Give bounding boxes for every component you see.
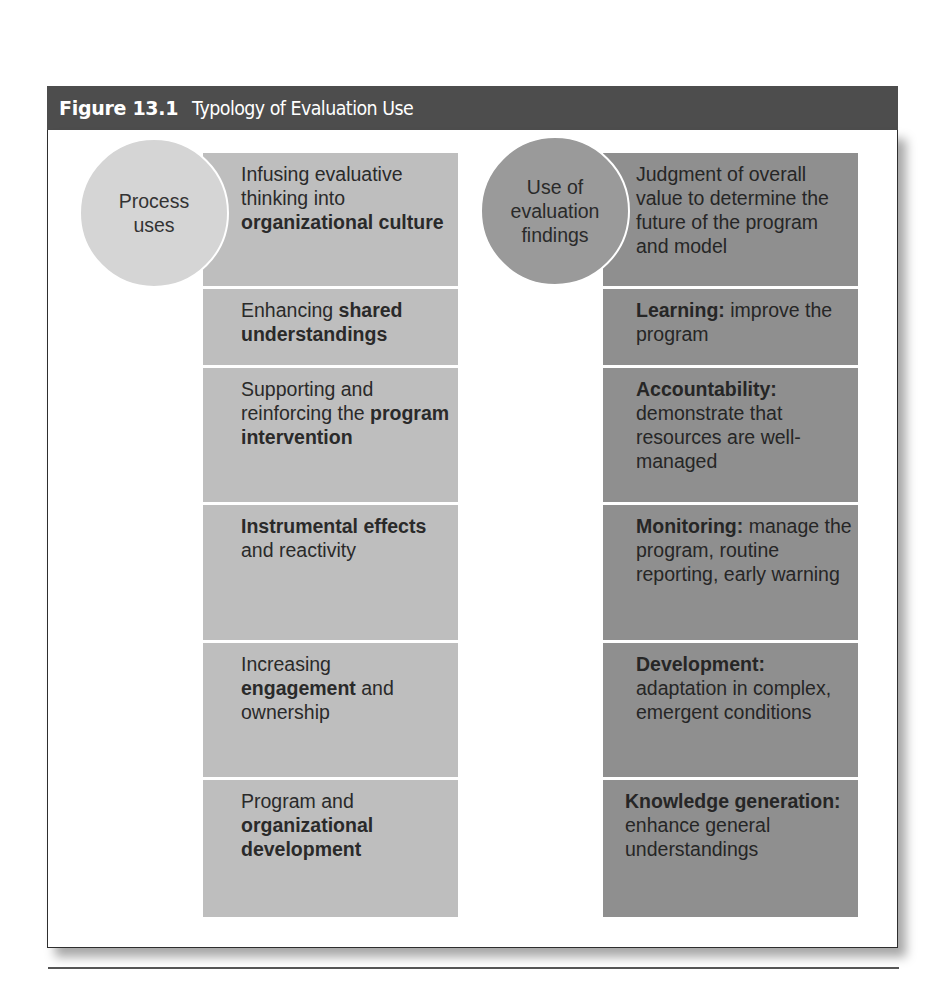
findings-use-item: Judgment of overall value to determine t… [603, 153, 858, 289]
findings-use-item: Monitoring: manage the program, routine … [603, 505, 858, 643]
figure-number: Figure 13.1 [59, 97, 178, 119]
process-use-item: Program and organizational development [203, 780, 458, 917]
findings-use-item: Learning: improve the program [603, 289, 858, 368]
bottom-rule-divider [48, 967, 899, 969]
figure-header: Figure 13.1 Typology of Evaluation Use [47, 86, 898, 130]
process-use-item: Supporting and reinforcing the program i… [203, 368, 458, 505]
circle-label-line: findings [511, 223, 600, 247]
process-use-item: Enhancing shared understandings [203, 289, 458, 368]
process-use-item: Infusing evaluative thinking into organi… [203, 153, 458, 289]
findings-uses-column: Judgment of overall value to determine t… [603, 153, 858, 917]
findings-use-item: Knowledge generation: enhance general un… [603, 780, 858, 917]
circle-label-line: Use of [511, 175, 600, 199]
circle-label-line: uses [119, 213, 189, 237]
findings-use-item: Development: adaptation in complex, emer… [603, 643, 858, 780]
process-use-item: Increasing engagement and ownership [203, 643, 458, 780]
findings-uses-circle: Use of evaluation findings [480, 136, 630, 286]
circle-label-line: Process [119, 189, 189, 213]
findings-use-item: Accountability: demonstrate that resourc… [603, 368, 858, 505]
circle-label-line: evaluation [511, 199, 600, 223]
process-uses-circle: Process uses [79, 138, 229, 288]
process-uses-column: Infusing evaluative thinking into organi… [203, 153, 458, 917]
process-use-item: Instrumental effects and reactivity [203, 505, 458, 643]
figure-title: Typology of Evaluation Use [192, 97, 413, 119]
